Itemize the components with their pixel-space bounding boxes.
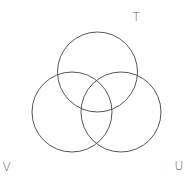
venn-diagram: T V U bbox=[0, 0, 192, 183]
set-u-label: U bbox=[175, 159, 184, 173]
set-v-label: V bbox=[3, 160, 11, 174]
set-t-label: T bbox=[133, 10, 141, 24]
